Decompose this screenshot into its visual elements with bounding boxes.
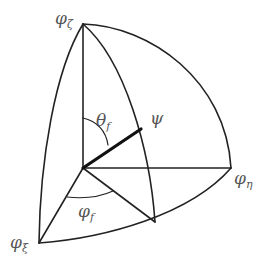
axis-xi <box>39 168 83 243</box>
meridian-psi <box>83 24 155 222</box>
arc-zeta-eta <box>83 24 231 168</box>
label-phi-xi: φξ <box>10 234 28 254</box>
label-psi: ψ <box>150 110 163 127</box>
varphi-angle-arc <box>67 191 113 198</box>
label-phi-zeta: φζ <box>55 10 73 30</box>
label-theta-f: θf <box>96 112 110 132</box>
octant-drawing <box>0 0 267 273</box>
spherical-octant-diagram: φζ φη φξ θf φf ψ <box>0 0 267 273</box>
label-varphi-f: φf <box>78 203 94 223</box>
psi-vector <box>83 129 141 168</box>
label-phi-eta: φη <box>234 170 253 190</box>
arc-zeta-xi <box>39 24 83 243</box>
arc-xi-eta <box>39 168 231 243</box>
